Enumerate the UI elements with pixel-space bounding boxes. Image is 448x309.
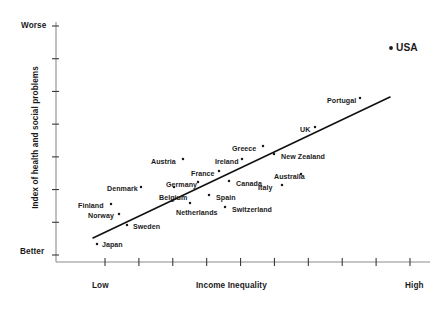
scatter-chart: Worse Better Index of health and social … [0, 0, 448, 309]
data-point-marker[interactable] [118, 213, 121, 216]
data-point-label: Switzerland [232, 206, 272, 214]
x-axis-low-label: Low [92, 281, 109, 290]
data-point-label: Netherlands [176, 209, 218, 217]
data-point-label: Norway [88, 212, 114, 220]
data-point-label: Greece [232, 145, 256, 153]
data-point-marker[interactable] [359, 97, 362, 100]
data-point-label: Spain [216, 194, 236, 202]
data-point-label: Finland [78, 202, 104, 210]
trend-line [93, 97, 390, 238]
data-point-marker[interactable] [182, 158, 185, 161]
data-point-marker[interactable] [241, 158, 244, 161]
data-point-marker[interactable] [218, 170, 221, 173]
x-axis-title: Income Inequality [196, 281, 267, 290]
data-point-marker[interactable] [273, 153, 276, 156]
y-axis-title: Index of health and social problems [31, 48, 40, 228]
data-point-marker[interactable] [314, 126, 317, 129]
data-point-label: New Zealand [281, 153, 325, 161]
data-point-marker[interactable] [140, 186, 143, 189]
data-point-marker[interactable] [228, 180, 231, 183]
data-point-label: Austria [151, 158, 176, 166]
y-axis-bottom-label: Better [20, 247, 44, 256]
data-point-marker[interactable] [189, 202, 192, 205]
data-point-label: Japan [102, 241, 123, 249]
data-point-marker[interactable] [110, 203, 113, 206]
data-point-marker[interactable] [126, 224, 129, 227]
data-point-label: Italy [258, 184, 272, 192]
data-point-marker[interactable] [262, 145, 265, 148]
data-point-marker[interactable] [96, 243, 99, 246]
data-point-marker[interactable] [224, 206, 227, 209]
data-point-label: USA [396, 42, 418, 53]
data-point-label: Ireland [215, 158, 239, 166]
plot-area [0, 0, 448, 309]
data-point-label: France [191, 170, 215, 178]
data-point-label: Belgium [159, 194, 187, 202]
data-point-label: Australia [274, 173, 305, 181]
data-point-label: Denmark [107, 185, 138, 193]
data-point-label: Portugal [327, 97, 356, 105]
data-point-marker[interactable] [389, 46, 393, 50]
data-point-marker[interactable] [208, 194, 211, 197]
y-axis-top-label: Worse [21, 21, 46, 30]
x-axis-high-label: High [405, 281, 424, 290]
data-point-label: UK [300, 126, 310, 134]
data-point-label: Germany [166, 181, 197, 189]
data-point-marker[interactable] [281, 184, 284, 187]
data-point-label: Sweden [133, 223, 160, 231]
data-point-marker[interactable] [197, 181, 200, 184]
